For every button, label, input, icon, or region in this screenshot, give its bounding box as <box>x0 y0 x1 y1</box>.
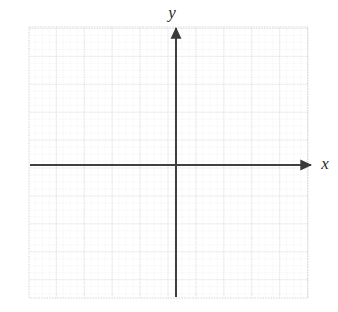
coordinate-plane-svg <box>0 0 338 312</box>
x-axis-label: x <box>317 155 333 172</box>
graph-canvas: y x <box>0 0 338 312</box>
grid-minor-lines <box>29 27 308 298</box>
y-axis-label: y <box>163 4 181 21</box>
grid-region <box>29 27 308 298</box>
